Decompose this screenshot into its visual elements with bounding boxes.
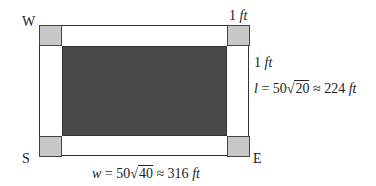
inner-dark-rectangle xyxy=(62,46,227,136)
corner-square-nw xyxy=(39,25,62,46)
label-e-corner: E xyxy=(253,152,262,166)
label-w-corner: W xyxy=(22,15,35,29)
length-formula: l = 50√20 ≈ 224 ft xyxy=(254,82,356,96)
side-dimension-label: 1 ft xyxy=(254,56,272,70)
corner-dimension-label: 1 ft xyxy=(229,9,247,23)
corner-square-se xyxy=(227,136,250,157)
corner-square-sw xyxy=(39,136,62,157)
width-formula: w = 50√40 ≈ 316 ft xyxy=(92,167,200,181)
corner-square-ne xyxy=(227,25,250,46)
label-s-corner: S xyxy=(22,152,30,166)
